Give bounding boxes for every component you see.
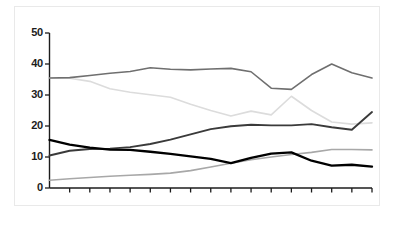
y-axis-tick-label-10: 10	[21, 151, 43, 162]
y-axis-tick-label-50: 50	[21, 27, 43, 38]
y-axis-tick-label-30: 30	[21, 89, 43, 100]
y-axis-tick-label-0: 0	[21, 182, 43, 193]
chart-line-series-1-gray-top	[50, 64, 373, 89]
chart-line-series-4-black-falling	[50, 140, 373, 167]
figure-caption	[22, 212, 222, 223]
line-chart-plot	[0, 0, 396, 226]
chart-line-series-2-light-gray	[50, 78, 373, 124]
chart-line-series-5-gray-bottom	[50, 150, 373, 181]
chart-svg	[0, 0, 396, 226]
y-axis-tick-label-20: 20	[21, 120, 43, 131]
y-axis-tick-label-40: 40	[21, 58, 43, 69]
chart-screenshot: 50 40 30 20 10 0	[0, 0, 396, 226]
